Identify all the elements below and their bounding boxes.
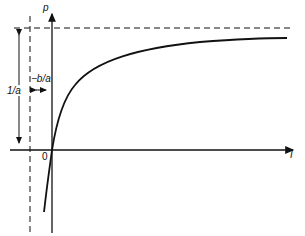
asymptote-height-label: 1/a — [7, 85, 21, 96]
response-curve — [44, 38, 287, 212]
origin-label: 0 — [42, 151, 48, 162]
x-axis-label: I — [290, 149, 293, 160]
diagram-canvas — [0, 0, 305, 236]
y-axis-label: p — [43, 2, 49, 13]
offset-label: −b/a — [31, 73, 51, 84]
